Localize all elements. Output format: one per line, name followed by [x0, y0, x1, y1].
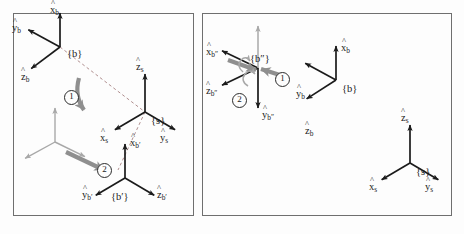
- frame-name-s: {s}: [151, 116, 165, 127]
- axis-label-z-b: zb: [305, 126, 313, 137]
- axis-label-z-s: zs: [136, 62, 144, 73]
- axis-label-x-s: xs: [100, 133, 108, 144]
- axis-line: [382, 163, 410, 180]
- step-marker-2: 2: [232, 93, 247, 108]
- axis-line: [125, 178, 154, 195]
- step-marker-1: 1: [64, 90, 79, 105]
- frame-name-b': {b′}: [111, 192, 129, 203]
- frame-name-b: {b}: [67, 49, 82, 60]
- axis-label-y-b′: yb′: [82, 190, 93, 201]
- axis-label-z-b″: zb″: [206, 86, 217, 97]
- axis-label-z-b: zb: [21, 72, 29, 83]
- axis-label-x-b″: xb″: [206, 47, 218, 58]
- step-marker-2: 2: [97, 163, 112, 178]
- axis-label-x-b: xb: [50, 5, 59, 16]
- axis-label-y-b″: yb″: [262, 110, 274, 121]
- rotation-arrow: [243, 71, 255, 86]
- figure-canvas: xbybzb{b}zsxsys{s}xb′yb′zb′{b′}xb″zb″yb″…: [0, 0, 464, 234]
- axis-line: [31, 47, 60, 69]
- axis-line: [28, 30, 60, 47]
- axis-label-x-s: xs: [369, 182, 377, 193]
- axis-label-z-s: zs: [401, 113, 409, 124]
- axis-label-x-b′: xb′: [130, 138, 141, 149]
- axis-line: [25, 142, 55, 158]
- frame-name-b: {b}: [342, 84, 357, 95]
- axis-line: [115, 112, 145, 130]
- axis-label-y-b: yb: [296, 89, 305, 100]
- axis-label-z-b′: zb′: [157, 190, 167, 201]
- axis-line: [307, 80, 336, 99]
- axis-label-x-b: xb: [341, 43, 350, 54]
- axis-label-y-b: yb: [12, 23, 21, 34]
- axis-line: [305, 63, 336, 80]
- vector-layer: [0, 0, 464, 234]
- axis-label-y-s: ys: [160, 133, 168, 144]
- axis-label-y-s: ys: [425, 182, 433, 193]
- frame-name-s: {s}: [416, 167, 430, 178]
- frame-name-b'': {b″}: [250, 54, 270, 65]
- step-marker-1: 1: [275, 72, 290, 87]
